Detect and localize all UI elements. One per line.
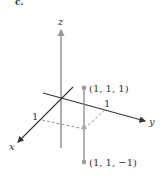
point-label-1-1-1: (1, 1, 1): [89, 83, 129, 94]
y-tick-label: 1: [104, 98, 110, 109]
dashed-line-y: [84, 110, 105, 129]
point-1-1-1: [82, 86, 87, 91]
x-axis-label: x: [9, 141, 15, 152]
x-axis: [18, 87, 73, 142]
y-axis: [43, 93, 145, 121]
projection-arrow-icon: [81, 123, 87, 129]
z-axis-label: z: [57, 16, 64, 27]
y-axis-label: y: [148, 116, 155, 127]
diagram-3d-axes: c. z y 1 x 1 (1, 1, 1) (1, 1, −1): [0, 0, 161, 184]
point-label-1-1-neg1: (1, 1, −1): [89, 157, 137, 168]
panel-label: c.: [15, 0, 24, 7]
x-tick-label: 1: [32, 111, 38, 122]
dashed-line-x: [42, 120, 84, 129]
point-1-1-neg1: [82, 160, 87, 165]
